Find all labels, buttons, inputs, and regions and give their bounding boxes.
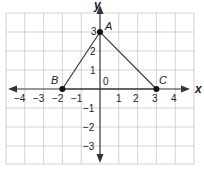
y-tick: 1 — [90, 65, 96, 76]
triangle-abc — [62, 32, 156, 89]
x-tick: −1 — [71, 93, 83, 104]
arrow-right-icon — [181, 86, 190, 93]
x-axis-label: x — [194, 82, 203, 96]
x-tick: −3 — [33, 93, 45, 104]
y-tick: −3 — [83, 141, 95, 152]
y-tick: 2 — [90, 46, 96, 57]
x-tick-labels: −4 −3 −2 −1 1 2 3 4 — [14, 93, 177, 104]
arrow-down-icon — [97, 154, 104, 163]
x-tick: −4 — [14, 93, 26, 104]
points — [59, 29, 159, 92]
point-b-label: B — [51, 74, 58, 86]
x-tick: 3 — [152, 93, 158, 104]
coordinate-plane: x y 0 −4 −3 −2 −1 1 2 3 4 3 2 1 −1 −2 −3… — [0, 0, 204, 174]
point-a-label: A — [104, 20, 112, 32]
point-a — [97, 29, 103, 35]
y-tick: −1 — [83, 103, 95, 114]
y-axis-label: y — [93, 0, 102, 12]
x-tick: 2 — [133, 93, 139, 104]
arrow-left-icon — [8, 86, 17, 93]
point-c-label: C — [159, 74, 167, 86]
x-tick: 1 — [116, 93, 122, 104]
origin-label: 0 — [103, 76, 109, 87]
y-tick: 3 — [91, 26, 97, 37]
x-tick: 4 — [171, 93, 177, 104]
point-b — [59, 86, 65, 92]
point-c — [153, 86, 159, 92]
x-tick: −2 — [52, 93, 64, 104]
y-tick: −2 — [83, 122, 95, 133]
